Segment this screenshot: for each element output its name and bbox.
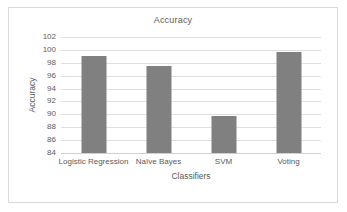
plot-area: 8486889092949698100102Logistic Regressio…: [61, 37, 321, 153]
bar: [276, 52, 301, 153]
x-axis-tick-label: Logistic Regression: [59, 158, 129, 166]
y-axis-tick-label: 98: [47, 59, 56, 67]
y-axis-tick-label: 92: [47, 97, 56, 105]
x-axis-title: Classifiers: [61, 171, 321, 181]
x-axis-tick-label: Naïve Bayes: [136, 158, 181, 166]
chart-frame: Accuracy Accuracy 8486889092949698100102…: [8, 7, 338, 203]
bar: [81, 56, 106, 153]
bar-group: Logistic Regression: [61, 37, 126, 153]
y-axis-tick-label: 88: [47, 123, 56, 131]
bar-group: SVM: [191, 37, 256, 153]
y-axis-title: Accuracy: [26, 37, 38, 153]
x-axis-tick-label: Voting: [277, 158, 299, 166]
y-axis-tick-label: 100: [43, 46, 56, 54]
bar: [146, 66, 171, 153]
y-axis-tick-label: 102: [43, 33, 56, 41]
bar: [211, 116, 236, 153]
y-axis-tick-label: 94: [47, 85, 56, 93]
bar-group: Voting: [256, 37, 321, 153]
y-axis-tick-label: 86: [47, 136, 56, 144]
gridline: [61, 153, 321, 154]
y-axis-tick-label: 90: [47, 110, 56, 118]
y-axis-tick-label: 96: [47, 72, 56, 80]
y-axis-tick-label: 84: [47, 149, 56, 157]
bar-group: Naïve Bayes: [126, 37, 191, 153]
chart-title: Accuracy: [9, 15, 337, 25]
x-axis-tick-label: SVM: [215, 158, 232, 166]
